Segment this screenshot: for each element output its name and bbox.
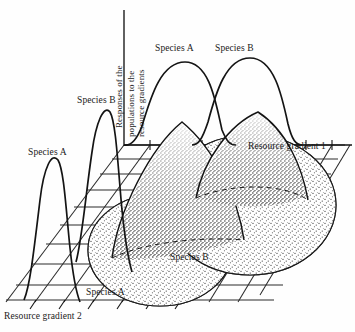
- label-left-species-a: Species A: [28, 148, 67, 158]
- label-left-species-b: Species B: [77, 96, 116, 106]
- ecological-niche-figure: Responses of the populations to the reso…: [0, 0, 355, 332]
- vertical-axis-label-line-2: populations to the: [127, 71, 136, 137]
- horizontal-axis-label: Resource gradient 1: [248, 142, 326, 152]
- label-base-species-a: Species A: [86, 288, 125, 298]
- label-back-species-b: Species B: [215, 44, 254, 54]
- depth-axis-label: Resource gradient 2: [4, 312, 82, 322]
- label-back-species-a: Species A: [155, 44, 194, 54]
- vertical-axis-label-line-1: Responses of the: [115, 65, 124, 128]
- label-base-species-b: Species B: [170, 253, 209, 263]
- vertical-axis-label-line-3: resource gradients: [137, 69, 146, 137]
